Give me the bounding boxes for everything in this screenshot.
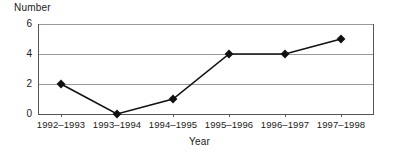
data-point-1996-1997 xyxy=(281,50,290,59)
x-axis-tick-label-1995-1996: 1995–1996 xyxy=(205,119,253,131)
chart-figure: Number 6 4 2 0 1992–1993 1993– xyxy=(0,0,399,156)
x-axis-title: Year xyxy=(0,136,399,148)
x-axis-tick-label-1994-1995: 1994–1995 xyxy=(149,119,197,131)
data-point-1997-1998 xyxy=(337,35,346,44)
x-axis-tick-label-1997-1998: 1997–1998 xyxy=(317,119,365,131)
data-point-1993-1994 xyxy=(113,110,122,119)
x-axis-tick-labels: 1992–1993 1993–1994 1994–1995 1995–1996 … xyxy=(0,119,399,133)
x-axis-tick-label-1993-1994: 1993–1994 xyxy=(93,119,141,131)
data-point-1992-1993 xyxy=(57,80,66,89)
x-axis-tick-label-1992-1993: 1992–1993 xyxy=(37,119,85,131)
series-line-number xyxy=(61,39,341,114)
x-axis-tick-label-1996-1997: 1996–1997 xyxy=(261,119,309,131)
